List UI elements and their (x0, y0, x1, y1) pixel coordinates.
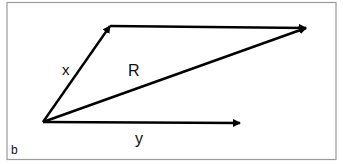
panel-label: b (11, 143, 18, 157)
vector-diagram (0, 0, 343, 164)
vector-x (43, 26, 110, 122)
label-R: R (128, 62, 140, 80)
vector-R (43, 28, 306, 122)
label-y: y (135, 130, 143, 148)
vector-y (43, 122, 240, 123)
vector-top (110, 26, 306, 28)
label-x: x (62, 61, 70, 78)
